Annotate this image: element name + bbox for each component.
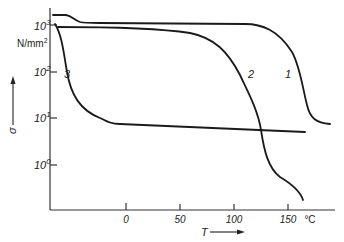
y-tick-label-100: 102	[34, 64, 51, 78]
x-tick-label-0: 0	[123, 214, 129, 225]
curve-2-label: 2	[247, 68, 254, 80]
stress-temperature-chart: 103 102 101 100 N/mm2 σ 0 50 100 150 °C …	[0, 0, 344, 242]
x-arrow-icon	[237, 230, 245, 235]
y-unit-label: N/mm2	[17, 37, 48, 49]
curve-1-label: 1	[285, 68, 291, 80]
y-arrow-icon	[11, 76, 16, 84]
x-unit-label: °C	[304, 214, 315, 225]
y-tick-label-1000: 103	[34, 18, 51, 32]
x-tick-label-100: 100	[226, 214, 243, 225]
x-tick-label-150: 150	[280, 214, 297, 225]
x-symbol: T	[201, 226, 209, 238]
y-tick-label-1: 100	[34, 157, 51, 171]
curve-3	[55, 24, 305, 132]
y-symbol: σ	[6, 127, 18, 134]
y-tick-label-10: 101	[34, 110, 51, 124]
x-tick-label-50: 50	[174, 214, 186, 225]
curve-2	[58, 27, 303, 200]
curve-3-label: 3	[64, 68, 71, 80]
